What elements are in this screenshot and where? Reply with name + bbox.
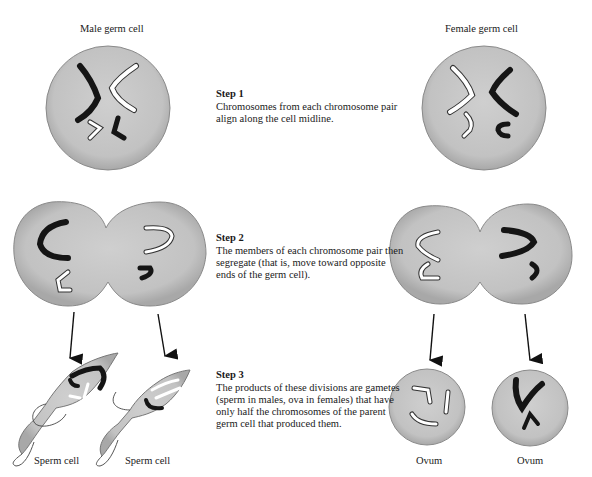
sperm-cell-label-2: Sperm cell (125, 455, 170, 466)
arrow-to-ovum-2 (525, 314, 530, 360)
male-germ-cell-title: Male germ cell (80, 23, 144, 34)
arrow-to-sperm-2 (158, 314, 165, 356)
female-dividing-cell (390, 204, 572, 304)
arrows (70, 312, 530, 360)
male-dividing-cell (14, 202, 206, 306)
sperm-cell-label-1: Sperm cell (34, 455, 79, 466)
arrow-to-ovum-1 (430, 314, 434, 360)
ovum-2 (492, 370, 568, 446)
step-3: Step 3 The products of these divisions a… (216, 369, 406, 430)
step-3-text: The products of these divisions are game… (216, 382, 406, 430)
step-2-text: The members of each chromosome pair then… (216, 245, 406, 281)
step-1: Step 1 Chromosomes from each chromosome … (216, 88, 406, 125)
female-germ-cell (422, 46, 546, 170)
step-2-title: Step 2 (216, 232, 406, 244)
step-2: Step 2 The members of each chromosome pa… (216, 232, 406, 281)
step-1-text: Chromosomes from each chromosome pair al… (216, 101, 406, 125)
step-1-title: Step 1 (216, 88, 406, 100)
sperm-cell-2 (96, 370, 190, 466)
male-germ-cell (46, 46, 170, 170)
ovum-label-1: Ovum (416, 455, 442, 466)
ovum-label-2: Ovum (517, 455, 543, 466)
step-3-title: Step 3 (216, 369, 406, 381)
female-germ-cell-title: Female germ cell (445, 23, 518, 34)
arrow-to-sperm-1 (70, 312, 74, 358)
